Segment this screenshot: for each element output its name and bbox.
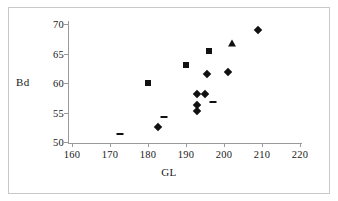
x-tick-200 xyxy=(224,143,225,147)
x-tick-160 xyxy=(72,143,73,147)
x-axis-line xyxy=(68,143,302,144)
x-tick-220 xyxy=(300,143,301,147)
y-tick-label-50: 50 xyxy=(44,137,64,148)
x-tick-180 xyxy=(148,143,149,147)
x-tick-label-190: 190 xyxy=(178,149,194,160)
y-tick-label-65: 65 xyxy=(44,48,64,59)
y-axis-title: Bd xyxy=(16,76,29,88)
x-tick-170 xyxy=(110,143,111,147)
plot-area xyxy=(68,21,300,143)
data-point-square xyxy=(183,62,189,68)
x-tick-label-220: 220 xyxy=(292,149,308,160)
data-point-triangle xyxy=(228,40,236,47)
scatter-chart-figure: 1601701801902002102205055606570 Bd GL xyxy=(0,0,338,201)
x-tick-label-200: 200 xyxy=(216,149,232,160)
data-point-square xyxy=(145,80,151,86)
x-tick-label-180: 180 xyxy=(140,149,156,160)
x-axis-title: GL xyxy=(0,166,338,178)
y-tick-label-70: 70 xyxy=(44,19,64,30)
data-point-dash xyxy=(116,133,123,135)
y-tick-label-55: 55 xyxy=(44,107,64,118)
x-tick-label-210: 210 xyxy=(254,149,270,160)
x-tick-label-170: 170 xyxy=(102,149,118,160)
data-point-square xyxy=(206,48,212,54)
data-point-dash xyxy=(161,116,168,118)
y-tick-label-60: 60 xyxy=(44,78,64,89)
x-tick-210 xyxy=(262,143,263,147)
x-tick-label-160: 160 xyxy=(64,149,80,160)
x-tick-190 xyxy=(186,143,187,147)
data-point-dash xyxy=(209,101,216,103)
